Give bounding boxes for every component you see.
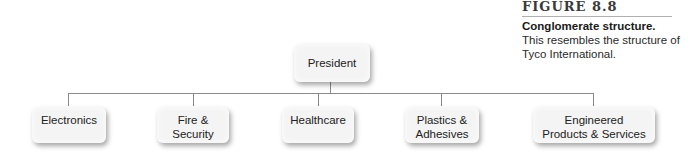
figure-caption: FIGURE 8.8 Conglomerate structure. This … xyxy=(522,0,692,61)
root-connector xyxy=(330,82,331,93)
org-node-healthcare: Healthcare xyxy=(282,107,354,143)
horizontal-connector xyxy=(68,93,593,94)
child-connector-engineered xyxy=(593,93,594,106)
org-node-fire-security: Fire & Security xyxy=(157,107,229,143)
node-label: Engineered Products & Services xyxy=(541,113,647,141)
org-node-plastics-adhesives: Plastics & Adhesives xyxy=(405,107,479,143)
node-label: Fire & Security xyxy=(165,113,221,141)
child-connector-healthcare xyxy=(318,93,319,106)
org-node-president: President xyxy=(294,44,370,82)
org-node-electronics: Electronics xyxy=(32,107,106,143)
node-label: Healthcare xyxy=(290,113,346,127)
figure-description: This resembles the structure of Tyco Int… xyxy=(522,33,692,61)
node-label: Plastics & Adhesives xyxy=(411,113,473,141)
node-label: President xyxy=(308,56,357,70)
node-label: Electronics xyxy=(41,113,97,127)
org-node-engineered-products-services: Engineered Products & Services xyxy=(533,107,655,143)
figure-title: Conglomerate structure. xyxy=(522,19,692,33)
child-connector-electronics xyxy=(68,93,69,106)
figure-label: FIGURE 8.8 xyxy=(522,0,672,17)
child-connector-fire-security xyxy=(193,93,194,106)
child-connector-plastics xyxy=(441,93,442,106)
